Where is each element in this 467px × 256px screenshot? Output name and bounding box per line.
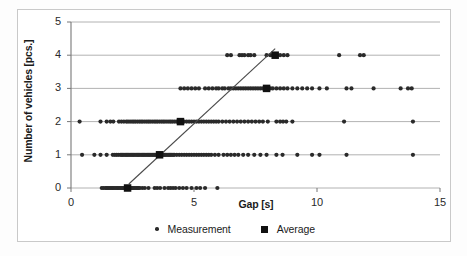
y-tick-label-3: 3 (39, 81, 61, 93)
measurement-marker-icon (155, 227, 159, 231)
average-marker-icon (261, 226, 268, 233)
y-tick-label-0: 0 (39, 181, 61, 193)
x-axis-title: Gap [s] (216, 198, 296, 210)
x-tick-label-15: 15 (425, 196, 455, 208)
legend-label-average: Average (277, 223, 315, 235)
x-tick-label-10: 10 (302, 196, 332, 208)
chart-legend: Measurement Average (100, 219, 370, 239)
x-tick-label-5: 5 (179, 196, 209, 208)
y-axis-title: Number of vehicles [pcs.] (22, 11, 34, 191)
x-tick-label-0: 0 (56, 196, 86, 208)
legend-label-measurement: Measurement (168, 223, 231, 235)
y-tick-label-1: 1 (39, 148, 61, 160)
legend-item-measurement: Measurement (155, 223, 231, 235)
legend-item-average: Average (261, 223, 315, 235)
y-tick-label-5: 5 (39, 15, 61, 27)
figure-container: 543210 051015 Number of vehicles [pcs.] … (0, 0, 467, 256)
y-tick-label-4: 4 (39, 48, 61, 60)
y-tick-label-2: 2 (39, 115, 61, 127)
